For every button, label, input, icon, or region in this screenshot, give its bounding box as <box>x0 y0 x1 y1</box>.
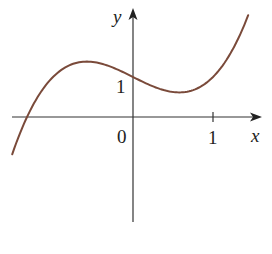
x-tick-label-1: 1 <box>208 127 218 148</box>
origin-label: 0 <box>117 126 127 147</box>
y-tick-label-1: 1 <box>116 76 126 97</box>
function-graph: y x 0 1 1 <box>0 0 272 254</box>
x-axis-label: x <box>250 125 260 146</box>
y-axis-label: y <box>111 6 122 27</box>
